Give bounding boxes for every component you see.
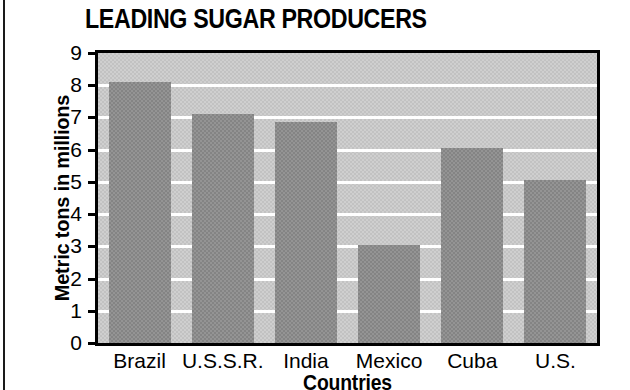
y-axis-tick-label: 4 xyxy=(56,203,82,224)
y-axis-tick-labels: 9876543210 xyxy=(52,0,82,390)
bar xyxy=(192,114,254,343)
gridline xyxy=(98,310,597,313)
bar xyxy=(358,245,420,343)
y-axis-tick-label: 5 xyxy=(56,171,82,192)
y-axis-tick-mark xyxy=(88,310,96,313)
chart-figure: LEADING SUGAR PRODUCERS Metric tons in m… xyxy=(0,0,630,390)
gridline xyxy=(98,245,597,248)
plot-area xyxy=(95,50,600,346)
bar xyxy=(109,82,171,343)
gridline xyxy=(98,181,597,184)
y-axis-tick-label: 6 xyxy=(56,139,82,160)
page-edge-rule xyxy=(3,0,5,390)
gridline xyxy=(98,213,597,216)
y-axis-tick-label: 3 xyxy=(56,235,82,256)
y-axis-tick-mark xyxy=(88,342,96,345)
y-axis-tick-mark xyxy=(88,116,96,119)
gridline xyxy=(98,84,597,87)
x-axis-title: Countries xyxy=(125,370,569,390)
gridline xyxy=(98,116,597,119)
chart-title: LEADING SUGAR PRODUCERS xyxy=(85,2,498,36)
y-axis-tick-mark xyxy=(88,213,96,216)
y-axis-tick-label: 0 xyxy=(56,332,82,353)
y-axis-tick-label: 2 xyxy=(56,268,82,289)
bar xyxy=(275,122,337,343)
y-axis-tick-mark xyxy=(88,52,96,55)
y-axis-tick-label: 1 xyxy=(56,300,82,321)
gridline xyxy=(98,149,597,152)
y-axis-tick-mark xyxy=(88,84,96,87)
bar xyxy=(524,180,586,343)
y-axis-tick-label: 9 xyxy=(56,42,82,63)
y-axis-tick-mark xyxy=(88,149,96,152)
gridline xyxy=(98,278,597,281)
y-axis-tick-mark xyxy=(88,278,96,281)
y-axis-tick-mark xyxy=(88,245,96,248)
y-axis-tick-label: 7 xyxy=(56,106,82,127)
bar xyxy=(441,148,503,343)
plot-inner xyxy=(98,53,597,343)
y-axis-tick-mark xyxy=(88,181,96,184)
y-axis-tick-label: 8 xyxy=(56,74,82,95)
